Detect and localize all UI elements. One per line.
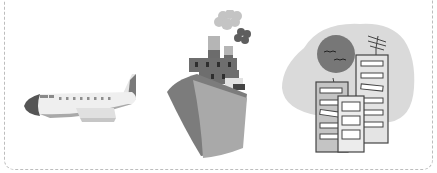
airplane-icon (20, 70, 140, 126)
sun-icon (317, 35, 355, 73)
city-buildings-icon (280, 18, 420, 153)
smoke-cloud-light (214, 10, 242, 30)
ship-icon (165, 10, 255, 160)
smoke-cloud-dark (234, 28, 251, 44)
